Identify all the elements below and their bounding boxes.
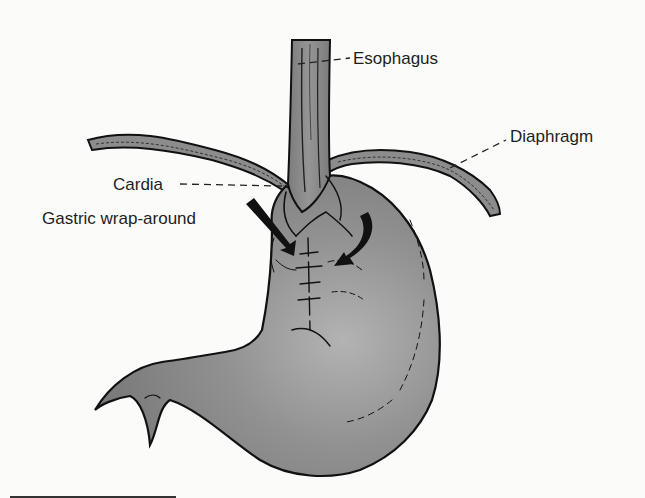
label-cardia: Cardia <box>113 176 163 193</box>
stomach-illustration <box>0 0 645 498</box>
leader-diaphragm <box>450 140 506 168</box>
esophagus <box>288 40 330 212</box>
label-diaphragm: Diaphragm <box>510 128 593 145</box>
label-esophagus: Esophagus <box>353 50 438 67</box>
leader-cardia <box>180 184 282 186</box>
label-gastric-wrap-around: Gastric wrap-around <box>42 210 196 227</box>
